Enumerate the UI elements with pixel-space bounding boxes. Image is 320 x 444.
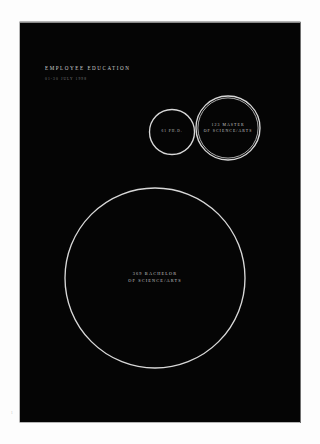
bubble-rings (65, 96, 260, 368)
bubble-label-bachelors: 369 BACHELOR OF SCIENCE/ARTS (128, 271, 182, 284)
page-number: 1 (11, 411, 13, 415)
bubble-label-phd: 61 PH.D. (161, 129, 182, 134)
bubble-chart: 61 PH.D. 123 MASTER OF SCIENCE/ARTS 369 … (20, 22, 300, 422)
bubble-label-bachelors-line2: OF SCIENCE/ARTS (128, 278, 182, 285)
poster-page: EMPLOYEE EDUCATION 01-30 JULY 1998 61 PH… (20, 22, 300, 422)
bubble-label-masters-line2: OF SCIENCE/ARTS (204, 128, 253, 134)
bubble-label-phd-line1: 61 PH.D. (161, 129, 182, 134)
bubble-label-masters: 123 MASTER OF SCIENCE/ARTS (204, 122, 253, 134)
scan-surface: 1 EMPLOYEE EDUCATION 01-30 JULY 1998 61 … (0, 0, 320, 444)
bubble-label-bachelors-line1: 369 BACHELOR (128, 271, 182, 278)
